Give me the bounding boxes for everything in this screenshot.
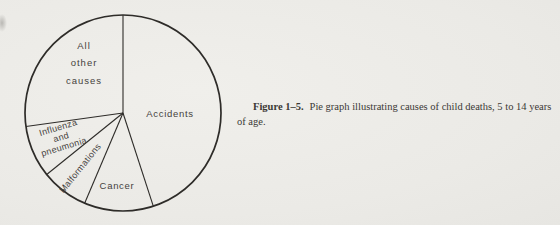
pie-slice-label-1: Cancer xyxy=(100,180,135,191)
figure-caption-label: Figure 1–5. xyxy=(253,101,304,112)
pie-slice-label-0: Accidents xyxy=(146,108,194,119)
pie-slice-boundary-1 xyxy=(123,113,153,206)
pie-chart-svg: AccidentsCancerMalformationsInfluenzaand… xyxy=(0,0,240,225)
scanned-book-page: AccidentsCancerMalformationsInfluenzaand… xyxy=(0,0,560,225)
pie-slice-label-4: Allothercauses xyxy=(66,40,102,86)
figure-caption: Figure 1–5.Pie graph illustrating causes… xyxy=(237,99,555,129)
pie-chart: AccidentsCancerMalformationsInfluenzaand… xyxy=(0,0,240,225)
pie-slice-label-3: Influenzaandpneumonia xyxy=(34,116,88,158)
